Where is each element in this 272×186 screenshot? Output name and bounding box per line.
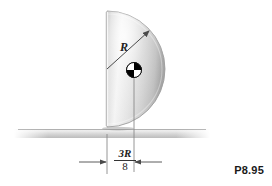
dimension-label: 3R 8	[112, 148, 138, 172]
dimension-denominator: 8	[112, 161, 138, 173]
figure-number-label: P8.95	[234, 164, 264, 176]
radius-label: R	[120, 40, 128, 55]
dimension-numerator: 3R	[112, 148, 138, 160]
figure-container: R 3R 8 P8.95	[0, 0, 272, 186]
center-of-mass-marker	[127, 63, 142, 78]
ground-surface	[14, 129, 210, 138]
